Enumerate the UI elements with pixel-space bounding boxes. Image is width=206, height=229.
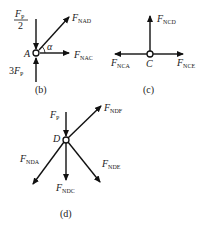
caption-b: (b) [35,84,47,96]
label-fnad: FNAD [71,12,92,24]
node-a [33,50,39,56]
free-body-diagrams: FP 2 FNAD FNAC 3FP A α (b) FNCD FNCA FNC… [0,0,206,229]
label-node-c: C [146,58,153,69]
label-alpha: α [47,41,53,52]
label-fncd: FNCD [156,13,176,25]
label-node-a: A [23,48,31,59]
label-fndf: FNDF [103,102,123,114]
label-fndc: FNDC [55,182,75,194]
caption-d: (d) [60,208,72,220]
label-fnde: FNDE [101,158,121,170]
force-arrow-fnad [39,17,69,50]
label-fp-half-numerator: FP [14,8,25,20]
diagram-b: FP 2 FNAD FNAC 3FP A α (b) [9,8,93,96]
label-fnda: FNDA [19,153,40,165]
label-fnca: FNCA [110,57,130,69]
node-d [63,137,69,143]
label-fnce: FNCE [176,57,195,69]
force-arrow-fnde [68,142,100,182]
diagram-d: FP D FNDF FNDA FNDC FNDE (d) [19,102,123,220]
node-c [147,51,153,57]
label-fp: FP [49,109,60,121]
diagram-c: FNCD FNCA FNCE C (c) [110,13,195,96]
label-node-d: D [52,133,61,144]
label-3fp: 3FP [9,65,24,77]
caption-c: (c) [143,84,154,96]
force-arrow-fndf [68,106,101,138]
angle-arc [43,47,46,53]
label-fnac: FNAC [73,49,93,61]
label-fp-half-denominator: 2 [18,20,23,31]
